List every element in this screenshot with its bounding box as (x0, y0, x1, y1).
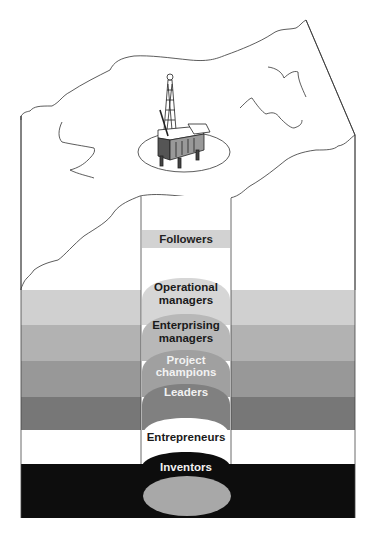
label-entrepreneurs: Entrepreneurs (147, 431, 226, 443)
label-followers: Followers (159, 233, 213, 245)
label-leaders: Leaders (164, 386, 208, 398)
label-operational-managers-line1: Operational (154, 281, 218, 293)
talent-well-diagram: Followers Operational managers Enterpris… (0, 0, 374, 537)
label-enterprising-managers-line2: managers (159, 332, 213, 344)
label-project-champions-line1: Project (167, 354, 206, 366)
label-operational-managers-line2: managers (159, 294, 213, 306)
label-enterprising-managers-line1: Enterprising (152, 319, 220, 331)
label-inventors: Inventors (160, 461, 212, 473)
inventors-core (143, 476, 231, 516)
label-project-champions-line2: champions (156, 366, 217, 378)
oil-rig-icon (158, 74, 210, 168)
